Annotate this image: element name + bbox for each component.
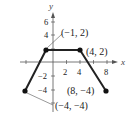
y-tick-label: −2	[38, 71, 47, 81]
point-label: (−1, 2)	[61, 27, 88, 39]
x-tick-label: 4	[77, 67, 82, 77]
y-tick-label: 6	[44, 17, 48, 27]
point-label: (−4, −4)	[55, 100, 88, 112]
x-tick-label: 8	[104, 67, 108, 77]
point-4-2	[77, 47, 82, 52]
point-label: (4, 2)	[86, 46, 108, 58]
y-axis-label: y	[48, 1, 53, 11]
y-axis-arrow-icon	[51, 12, 55, 18]
y-tick-label: −4	[38, 85, 48, 95]
leader-line	[47, 34, 62, 48]
x-axis-arrow-icon	[112, 60, 118, 64]
point-label: (8, −4)	[67, 85, 94, 97]
graph: x y 2 4 8 6 4 −2 −4 (−1, 2) (4, 2) (8, −…	[0, 0, 138, 129]
y-tick-label: 4	[44, 30, 49, 40]
point-neg4-neg4	[22, 88, 27, 93]
x-axis-label: x	[120, 57, 125, 67]
point-8-neg4	[103, 88, 108, 93]
x-tick-label: 2	[63, 67, 67, 77]
point-neg1-2	[43, 47, 48, 52]
